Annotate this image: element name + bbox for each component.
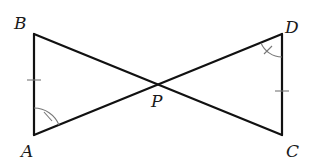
label-b: B [13,13,27,33]
geometry-diagram: B A P D C [0,0,319,168]
label-p: P [150,91,163,111]
angle-arc-d [261,43,282,57]
label-c: C [286,141,299,161]
angle-arc-a [34,108,59,125]
label-d: D [284,17,299,37]
label-a: A [19,141,33,161]
